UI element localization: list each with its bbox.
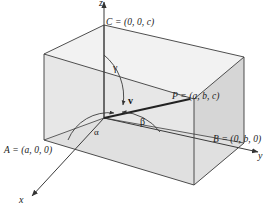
axis-label-z: z	[99, 0, 103, 8]
point-label-A: A = (a, 0, 0)	[4, 145, 52, 155]
angle-label-alpha: α	[94, 127, 99, 137]
angle-label-gamma: γ	[113, 62, 117, 73]
point-label-P: P = (a, b, c)	[172, 91, 220, 101]
axis-label-x: x	[19, 194, 23, 205]
angle-label-beta: β	[140, 116, 145, 127]
vector-label-v: v	[128, 95, 133, 106]
box-and-axes-svg	[0, 0, 271, 213]
direction-angles-figure: C = (0, 0, c) P = (a, b, c) B = (0, b, 0…	[0, 0, 271, 213]
box-faces	[44, 25, 244, 185]
point-label-C: C = (0, 0, c)	[106, 17, 154, 27]
axis-label-y: y	[258, 150, 262, 161]
point-label-B: B = (0, b, 0)	[213, 134, 261, 144]
